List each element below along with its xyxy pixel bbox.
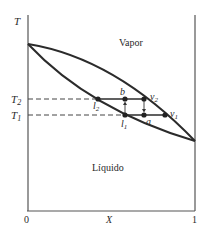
label-l1: l1 [121, 118, 127, 131]
liquid-region-label: Líquido [92, 162, 124, 173]
phase-diagram: T Vapor Líquido T2 T1 l2 b v2 l1 a v1 0 … [0, 0, 203, 234]
label-b: b [120, 86, 125, 97]
t2-label: T2 [11, 93, 21, 107]
x-axis-label: X [105, 214, 113, 225]
point-l1 [122, 112, 127, 117]
t1-label: T1 [11, 109, 21, 123]
y-axis-label: T [14, 15, 21, 27]
vapor-curve [28, 44, 195, 141]
arrow-head-down [142, 109, 146, 113]
point-v2 [141, 96, 146, 101]
point-b [122, 96, 127, 101]
label-l2: l2 [93, 100, 100, 113]
x-tick-0: 0 [24, 214, 29, 225]
x-tick-1: 1 [192, 214, 197, 225]
liquid-curve [28, 44, 195, 141]
label-a: a [146, 116, 151, 127]
point-l2 [95, 96, 100, 101]
vapor-region-label: Vapor [119, 37, 144, 48]
arrow-head-up [123, 102, 127, 106]
point-v1 [162, 112, 167, 117]
